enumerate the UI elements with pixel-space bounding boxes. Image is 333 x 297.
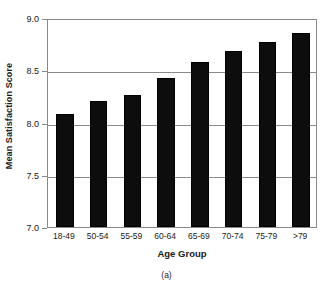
bar: [225, 51, 243, 227]
x-tick-label: 55-59: [121, 231, 143, 241]
bar-series: [48, 20, 316, 227]
bar: [292, 33, 310, 227]
bar: [124, 95, 142, 227]
y-tick-label: 8.0: [26, 119, 39, 129]
y-tick-label: 8.5: [26, 66, 39, 76]
x-axis-title: Age Group: [47, 248, 317, 259]
y-tick-mark: [42, 228, 47, 229]
x-tick-label: 70-74: [222, 231, 244, 241]
x-tick-label: 18-49: [53, 231, 75, 241]
figure-caption: (a): [0, 270, 333, 280]
x-tick-label: 65-69: [188, 231, 210, 241]
bar: [90, 101, 108, 227]
plot-area: [47, 19, 317, 228]
bar: [157, 78, 175, 227]
y-tick-label: 7.5: [26, 171, 39, 181]
x-tick-label: 75-79: [256, 231, 278, 241]
bar: [191, 62, 209, 227]
bar-chart-figure: Mean Satisfaction Score 7.07.58.08.59.0 …: [0, 0, 333, 297]
y-tick-label: 9.0: [26, 14, 39, 24]
bar: [56, 114, 74, 227]
x-tick-label: 50-54: [87, 231, 109, 241]
x-axis-ticks: 18-4950-5455-5960-6465-6970-7475-79>79: [47, 231, 317, 247]
bar: [259, 42, 277, 227]
y-tick-label: 7.0: [26, 223, 39, 233]
y-axis-ticks: 7.07.58.08.59.0: [0, 0, 47, 297]
x-tick-label: >79: [293, 231, 307, 241]
x-tick-label: 60-64: [154, 231, 176, 241]
